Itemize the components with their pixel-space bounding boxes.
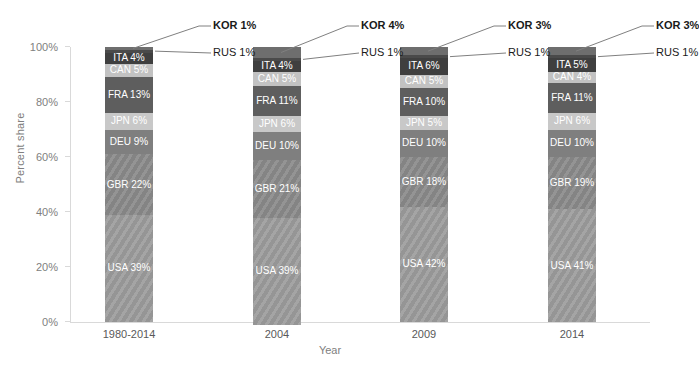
- bar-segment-label: USA 41%: [551, 261, 594, 271]
- y-axis-tick-20: 20%: [0, 260, 70, 274]
- bar-segment-label: USA 39%: [256, 266, 299, 276]
- bar-segment-label: JPN 6%: [111, 116, 147, 126]
- y-axis-tick-mark: [65, 211, 70, 212]
- callout-label-rus-2004: RUS 1%: [361, 46, 403, 58]
- y-axis-tick-60: 60%: [0, 150, 70, 164]
- bar-segment-GBR[interactable]: GBR 21%: [253, 160, 301, 218]
- bar-segment-GBR[interactable]: GBR 18%: [400, 157, 448, 207]
- y-axis-tick-label: 100%: [30, 40, 58, 54]
- y-axis-tick-mark: [65, 266, 70, 267]
- callout-label-rus-1980-2014: RUS 1%: [213, 46, 255, 58]
- x-axis-title: Year: [0, 344, 660, 356]
- bar-segment-label: GBR 18%: [402, 177, 446, 187]
- y-axis-tick-40: 40%: [0, 205, 70, 219]
- bar-segment-label: FRA 13%: [108, 90, 150, 100]
- y-axis-tick-mark: [65, 101, 70, 102]
- bar-segment-CAN[interactable]: CAN 4%: [548, 72, 596, 83]
- bar-segment-JPN[interactable]: JPN 6%: [548, 113, 596, 130]
- bar-segment-label: JPN 6%: [554, 116, 590, 126]
- y-axis-tick-label: 40%: [36, 205, 58, 219]
- y-axis-tick-80: 80%: [0, 95, 70, 109]
- x-axis-tick-label-2009: 2009: [364, 328, 484, 340]
- callout-label-kor-2014: KOR 3%: [656, 19, 699, 31]
- bar-segment-label: ITA 6%: [408, 61, 440, 71]
- bar-2004[interactable]: ITA 4%CAN 5%FRA 11%JPN 6%DEU 10%GBR 21%U…: [253, 47, 301, 322]
- bar-segment-DEU[interactable]: DEU 9%: [105, 130, 153, 155]
- y-axis-tick-mark: [65, 321, 70, 322]
- y-axis-tick-0: 0%: [0, 315, 70, 329]
- kor-leader-line: [133, 26, 211, 48]
- x-axis-line: [70, 322, 650, 323]
- y-axis-tick-mark: [65, 46, 70, 47]
- bar-segment-label: CAN 5%: [110, 65, 148, 75]
- bar-segment-KOR[interactable]: [253, 47, 301, 58]
- callout-label-rus-2014: RUS 1%: [656, 46, 698, 58]
- bar-segment-label: ITA 4%: [261, 61, 293, 71]
- bar-segment-label: GBR 21%: [255, 184, 299, 194]
- y-axis-tick-label: 60%: [36, 150, 58, 164]
- bar-segment-KOR[interactable]: [548, 47, 596, 55]
- bar-segment-label: JPN 5%: [406, 118, 442, 128]
- bar-segment-USA[interactable]: USA 39%: [105, 215, 153, 322]
- bar-segment-label: DEU 10%: [402, 138, 446, 148]
- bar-segment-label: USA 39%: [108, 263, 151, 273]
- bar-segment-label: GBR 19%: [550, 178, 594, 188]
- y-axis-tick-label: 80%: [36, 95, 58, 109]
- bar-2009[interactable]: ITA 6%CAN 5%FRA 10%JPN 5%DEU 10%GBR 18%U…: [400, 47, 448, 322]
- x-axis-tick-label-2014: 2014: [512, 328, 632, 340]
- bar-segment-ITA[interactable]: ITA 4%: [105, 53, 153, 64]
- bar-segment-FRA[interactable]: FRA 11%: [253, 86, 301, 116]
- bar-segment-CAN[interactable]: CAN 5%: [400, 75, 448, 89]
- bar-segment-USA[interactable]: USA 41%: [548, 209, 596, 322]
- bar-segment-USA[interactable]: USA 39%: [253, 218, 301, 325]
- callout-label-kor-2009: KOR 3%: [508, 19, 551, 31]
- plot-area: ITA 4%CAN 5%FRA 13%JPN 6%DEU 9%GBR 22%US…: [71, 47, 650, 322]
- bar-segment-label: JPN 6%: [259, 119, 295, 129]
- bar-segment-label: GBR 22%: [107, 180, 151, 190]
- bar-segment-label: DEU 10%: [550, 138, 594, 148]
- y-axis-tick-100: 100%: [0, 40, 70, 54]
- bar-segment-label: ITA 5%: [556, 60, 588, 70]
- bar-segment-label: DEU 9%: [110, 137, 148, 147]
- bar-segment-JPN[interactable]: JPN 6%: [253, 116, 301, 133]
- bar-segment-CAN[interactable]: CAN 5%: [105, 64, 153, 78]
- bar-segment-DEU[interactable]: DEU 10%: [548, 130, 596, 158]
- callout-label-rus-2009: RUS 1%: [508, 46, 550, 58]
- bar-segment-DEU[interactable]: DEU 10%: [253, 132, 301, 160]
- x-axis-tick-label-1980-2014: 1980-2014: [69, 328, 189, 340]
- bar-segment-label: FRA 11%: [256, 96, 298, 106]
- bar-segment-label: DEU 10%: [255, 141, 299, 151]
- callout-label-kor-1980-2014: KOR 1%: [213, 19, 256, 31]
- y-axis-tick-mark: [65, 156, 70, 157]
- y-axis-tick-label: 0%: [42, 315, 58, 329]
- bar-segment-label: ITA 4%: [113, 53, 145, 63]
- bar-segment-label: CAN 5%: [258, 74, 296, 84]
- bar-segment-ITA[interactable]: ITA 6%: [400, 58, 448, 75]
- bar-2014[interactable]: ITA 5%CAN 4%FRA 11%JPN 6%DEU 10%GBR 19%U…: [548, 47, 596, 322]
- bar-segment-ITA[interactable]: ITA 4%: [253, 61, 301, 72]
- bar-segment-ITA[interactable]: ITA 5%: [548, 58, 596, 72]
- bar-segment-FRA[interactable]: FRA 13%: [105, 77, 153, 113]
- bar-segment-FRA[interactable]: FRA 10%: [400, 88, 448, 116]
- bar-segment-label: FRA 11%: [551, 93, 593, 103]
- bar-segment-CAN[interactable]: CAN 5%: [253, 72, 301, 86]
- bar-segment-label: USA 42%: [403, 259, 446, 269]
- bar-segment-label: FRA 10%: [403, 97, 445, 107]
- bar-segment-USA[interactable]: USA 42%: [400, 207, 448, 323]
- bar-1980-2014[interactable]: ITA 4%CAN 5%FRA 13%JPN 6%DEU 9%GBR 22%US…: [105, 47, 153, 322]
- bar-segment-KOR[interactable]: [400, 47, 448, 55]
- bar-segment-GBR[interactable]: GBR 22%: [105, 154, 153, 215]
- y-axis-tick-label: 20%: [36, 260, 58, 274]
- bar-segment-FRA[interactable]: FRA 11%: [548, 83, 596, 113]
- bar-segment-label: CAN 5%: [405, 76, 443, 86]
- callout-label-kor-2004: KOR 4%: [361, 19, 404, 31]
- bar-segment-DEU[interactable]: DEU 10%: [400, 130, 448, 158]
- bar-segment-label: CAN 4%: [553, 72, 591, 82]
- bar-segment-GBR[interactable]: GBR 19%: [548, 157, 596, 209]
- bar-segment-JPN[interactable]: JPN 6%: [105, 113, 153, 130]
- bar-segment-JPN[interactable]: JPN 5%: [400, 116, 448, 130]
- x-axis-tick-label-2004: 2004: [217, 328, 337, 340]
